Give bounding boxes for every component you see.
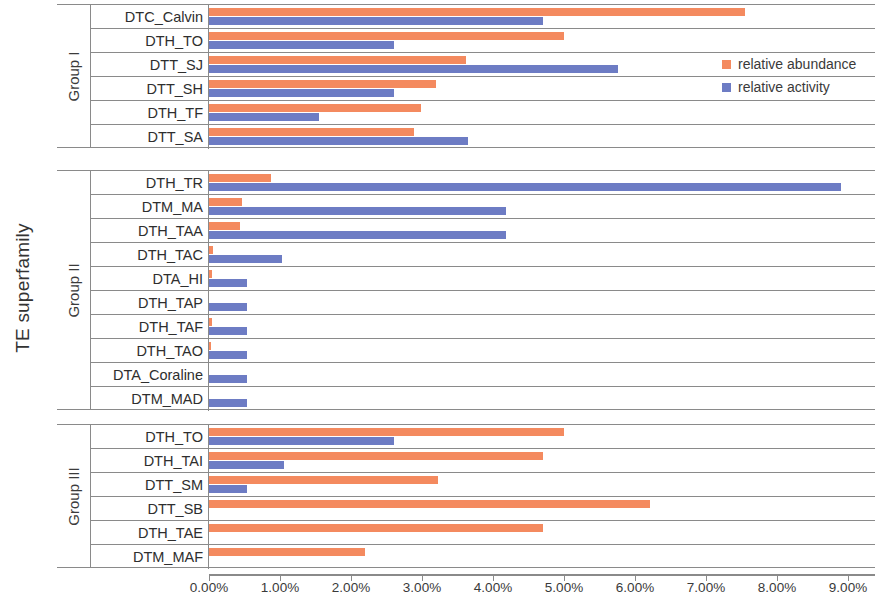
chart-row: DTH_TAI	[91, 449, 875, 473]
row-bars	[209, 171, 875, 194]
chart-row: DTA_Coraline	[91, 363, 875, 387]
bar-relative-abundance	[209, 104, 421, 112]
row-bars	[209, 219, 875, 242]
chart-legend: relative abundancerelative activity	[722, 56, 856, 102]
row-bars	[209, 125, 875, 149]
y-axis-title-text: TE superfamily	[12, 223, 34, 353]
chart-row: DTA_HI	[91, 267, 875, 291]
row-bars	[209, 473, 875, 496]
bar-relative-abundance	[209, 174, 271, 182]
chart-row: DTT_SM	[91, 473, 875, 497]
category-label: DTM_MAF	[91, 545, 209, 569]
row-bars	[209, 449, 875, 472]
x-axis-tick-label: 3.00%	[403, 580, 441, 595]
bar-relative-abundance	[209, 270, 212, 278]
chart-row: DTH_TAA	[91, 219, 875, 243]
bar-relative-abundance	[209, 548, 365, 556]
group-label: Group III	[57, 425, 91, 567]
bar-relative-abundance	[209, 318, 212, 326]
row-bars	[209, 5, 875, 28]
category-label: DTH_TR	[91, 171, 209, 194]
group-rows: DTH_TRDTM_MADTH_TAADTH_TACDTA_HIDTH_TAPD…	[91, 171, 875, 409]
x-axis-tick-label: 9.00%	[829, 580, 867, 595]
chart-row: DTC_Calvin	[91, 5, 875, 29]
row-bars	[209, 29, 875, 52]
row-bars	[209, 195, 875, 218]
category-label: DTT_SM	[91, 473, 209, 496]
bar-relative-activity	[209, 303, 247, 311]
bar-relative-activity	[209, 375, 247, 383]
bar-relative-abundance	[209, 8, 745, 16]
group-label-text: Group I	[65, 51, 82, 101]
bar-relative-activity	[209, 231, 506, 239]
bar-relative-abundance	[209, 32, 564, 40]
category-label: DTH_TAC	[91, 243, 209, 266]
chart-row: DTH_TO	[91, 425, 875, 449]
chart-row: DTT_SA	[91, 125, 875, 149]
chart-row: DTM_MA	[91, 195, 875, 219]
category-label: DTA_HI	[91, 267, 209, 290]
category-label: DTH_TAA	[91, 219, 209, 242]
bar-relative-activity	[209, 461, 284, 469]
chart-row: DTH_TF	[91, 101, 875, 125]
group-label-text: Group II	[65, 263, 82, 317]
bar-relative-activity	[209, 183, 841, 191]
row-bars	[209, 521, 875, 544]
row-bars	[209, 101, 875, 124]
row-bars	[209, 243, 875, 266]
category-label: DTM_MA	[91, 195, 209, 218]
category-label: DTH_TO	[91, 29, 209, 52]
category-label: DTH_TAP	[91, 291, 209, 314]
category-label: DTH_TAF	[91, 315, 209, 338]
group-label: Group I	[57, 5, 91, 147]
bar-relative-abundance	[209, 128, 414, 136]
category-label: DTC_Calvin	[91, 5, 209, 28]
x-axis-tick-label: 4.00%	[474, 580, 512, 595]
row-bars	[209, 387, 875, 411]
y-axis-title: TE superfamily	[0, 0, 46, 575]
bar-relative-abundance	[209, 198, 242, 206]
row-bars	[209, 315, 875, 338]
bar-relative-activity	[209, 327, 247, 335]
bar-relative-activity	[209, 207, 506, 215]
category-label: DTA_Coraline	[91, 363, 209, 386]
row-bars	[209, 425, 875, 448]
group-block: Group IIIDTH_TODTH_TAIDTT_SMDTT_SBDTH_TA…	[57, 424, 875, 568]
bar-relative-abundance	[209, 476, 438, 484]
x-axis-line	[209, 574, 875, 576]
bar-relative-activity	[209, 279, 247, 287]
row-bars	[209, 363, 875, 386]
bar-relative-abundance	[209, 452, 543, 460]
bar-relative-activity	[209, 137, 468, 145]
chart-root: TE superfamily Group IDTC_CalvinDTH_TODT…	[0, 0, 875, 598]
category-label: DTH_TAI	[91, 449, 209, 472]
chart-row: DTH_TAF	[91, 315, 875, 339]
bar-relative-activity	[209, 437, 394, 445]
chart-row: DTH_TAC	[91, 243, 875, 267]
group-label: Group II	[57, 171, 91, 409]
bar-relative-abundance	[209, 246, 213, 254]
category-label: DTT_SJ	[91, 53, 209, 76]
bar-relative-activity	[209, 255, 282, 263]
group-block: Group IIDTH_TRDTM_MADTH_TAADTH_TACDTA_HI…	[57, 170, 875, 410]
x-axis-tick-label: 8.00%	[758, 580, 796, 595]
bar-relative-activity	[209, 41, 394, 49]
category-label: DTT_SH	[91, 77, 209, 100]
group-rows: DTH_TODTH_TAIDTT_SMDTT_SBDTH_TAEDTM_MAF	[91, 425, 875, 567]
row-bars	[209, 339, 875, 362]
chart-row: DTM_MAF	[91, 545, 875, 569]
legend-swatch-icon	[722, 83, 731, 92]
category-label: DTH_TO	[91, 425, 209, 448]
chart-row: DTH_TO	[91, 29, 875, 53]
bar-relative-activity	[209, 113, 319, 121]
category-label: DTT_SB	[91, 497, 209, 520]
legend-swatch-icon	[722, 60, 731, 69]
chart-row: DTM_MAD	[91, 387, 875, 411]
x-axis-tick-label: 7.00%	[687, 580, 725, 595]
category-label: DTH_TAO	[91, 339, 209, 362]
bar-relative-abundance	[209, 80, 436, 88]
bar-relative-abundance	[209, 56, 466, 64]
row-bars	[209, 497, 875, 520]
bar-relative-activity	[209, 351, 247, 359]
chart-row: DTH_TAO	[91, 339, 875, 363]
